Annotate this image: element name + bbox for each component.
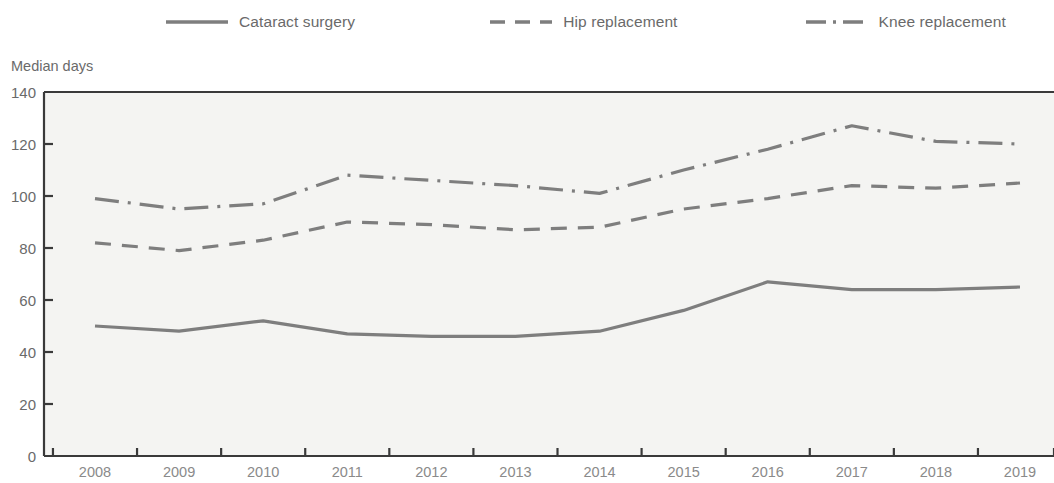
x-tick-label: 2010 xyxy=(247,464,279,480)
y-tick-label: 80 xyxy=(19,240,36,257)
y-tick-label: 100 xyxy=(11,188,36,205)
y-tick-label: 40 xyxy=(19,344,36,361)
x-axis-tick-labels: 2008200920102011201220132014201520162017… xyxy=(79,464,1036,480)
y-axis-tick-labels: 020406080100120140 xyxy=(11,84,36,465)
x-tick-label: 2014 xyxy=(583,464,615,480)
x-tick-label: 2017 xyxy=(836,464,868,480)
line-chart: 020406080100120140 200820092010201120122… xyxy=(0,0,1054,483)
chart-svg: 020406080100120140 200820092010201120122… xyxy=(0,0,1054,483)
x-tick-label: 2009 xyxy=(163,464,195,480)
y-tick-label: 140 xyxy=(11,84,36,101)
y-tick-label: 120 xyxy=(11,136,36,153)
x-tick-label: 2008 xyxy=(79,464,111,480)
x-tick-label: 2012 xyxy=(415,464,447,480)
y-tick-label: 0 xyxy=(28,448,36,465)
y-tick-label: 60 xyxy=(19,292,36,309)
x-tick-label: 2018 xyxy=(920,464,952,480)
plot-area-background xyxy=(44,92,1054,456)
x-tick-label: 2019 xyxy=(1004,464,1036,480)
x-tick-label: 2015 xyxy=(668,464,700,480)
y-tick-label: 20 xyxy=(19,396,36,413)
x-tick-label: 2013 xyxy=(499,464,531,480)
x-tick-label: 2011 xyxy=(332,464,363,480)
x-tick-label: 2016 xyxy=(752,464,784,480)
